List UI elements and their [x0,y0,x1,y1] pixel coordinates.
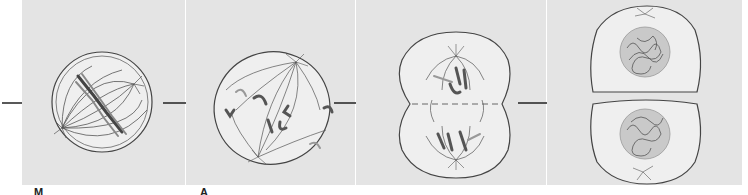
daughter-cells-illustration [547,0,742,185]
stage-1-label: M [34,186,44,195]
nucleus-bottom [620,109,670,159]
stage-2-panel [186,0,355,185]
stage-4-panel [547,0,742,185]
stage-1-panel [22,0,185,185]
stage-2-label: A [200,186,209,195]
nucleus-top [620,27,670,77]
stage-3-panel [356,0,546,185]
anaphase-cell-illustration [186,0,355,185]
metaphase-cell-illustration [22,0,185,185]
telophase-cell-illustration [356,0,546,185]
